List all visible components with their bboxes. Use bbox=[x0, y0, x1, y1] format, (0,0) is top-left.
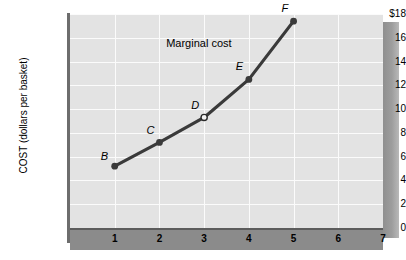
x-tick-label: 4 bbox=[239, 233, 259, 245]
gridline-horizontal bbox=[70, 157, 383, 158]
gridline-vertical bbox=[338, 14, 339, 228]
y-axis-title: COST (dollars per basket) bbox=[18, 36, 29, 196]
point-label-c: C bbox=[146, 125, 154, 136]
y-tick-label: $18 bbox=[344, 9, 406, 19]
x-tick-label: 7 bbox=[373, 233, 393, 245]
gridline-vertical bbox=[115, 14, 116, 228]
gridline-vertical bbox=[249, 14, 250, 228]
gridline-horizontal bbox=[70, 14, 383, 15]
series-annotation: Marginal cost bbox=[166, 37, 231, 49]
point-label-e: E bbox=[236, 61, 243, 72]
gridline-horizontal bbox=[70, 85, 383, 86]
y-tick-label: 4 bbox=[344, 175, 406, 185]
x-tick-label: 1 bbox=[105, 233, 125, 245]
point-label-b: B bbox=[101, 151, 108, 162]
x-axis-band-top-edge bbox=[70, 228, 383, 230]
y-tick-label: 16 bbox=[344, 33, 406, 43]
gridline-horizontal bbox=[70, 204, 383, 205]
y-tick-label: 10 bbox=[344, 104, 406, 114]
x-tick-label: 3 bbox=[194, 233, 214, 245]
gridline-horizontal bbox=[70, 133, 383, 134]
y-tick-label: 14 bbox=[344, 57, 406, 67]
gridline-vertical bbox=[159, 14, 160, 228]
x-tick-label: 5 bbox=[284, 233, 304, 245]
y-tick-label: 2 bbox=[344, 199, 406, 209]
y-tick-label: 8 bbox=[344, 128, 406, 138]
gridline-horizontal bbox=[70, 62, 383, 63]
y-tick-label: 0 bbox=[344, 223, 406, 233]
y-tick-label: 6 bbox=[344, 152, 406, 162]
gridline-horizontal bbox=[70, 180, 383, 181]
gridline-horizontal bbox=[70, 109, 383, 110]
gridline-vertical bbox=[294, 14, 295, 228]
y-tick-label: 12 bbox=[344, 80, 406, 90]
x-tick-label: 6 bbox=[328, 233, 348, 245]
y-axis-line bbox=[67, 13, 70, 243]
chart-figure: $181614121086420 1234567 COST (dollars p… bbox=[0, 0, 406, 260]
point-label-f: F bbox=[282, 3, 289, 14]
x-tick-label: 2 bbox=[149, 233, 169, 245]
point-label-d: D bbox=[191, 100, 199, 111]
